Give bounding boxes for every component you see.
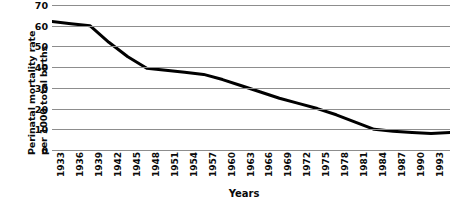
x-tick-label-1936: 1936 (75, 152, 85, 177)
gridline-70 (52, 5, 450, 6)
x-tick-label-1969: 1969 (283, 152, 293, 177)
plot-area (52, 5, 450, 150)
x-tick-label-1972: 1972 (302, 152, 312, 177)
x-axis-title-text: Years (229, 188, 260, 199)
x-axis-title: Years (0, 188, 452, 199)
x-tick-label-1939: 1939 (94, 152, 104, 177)
x-tick-label-1951: 1951 (170, 152, 180, 177)
gridline-50 (52, 46, 450, 47)
y-tick-label-10: 10 (26, 124, 48, 135)
y-tick-label-50: 50 (26, 41, 48, 52)
y-tick-label-70: 70 (26, 0, 48, 11)
y-tick-label-20: 20 (26, 103, 48, 114)
gridline-10 (52, 129, 450, 130)
x-axis-tick-labels: 1933193619391942194519481951195419571960… (52, 152, 450, 192)
y-tick-label-40: 40 (26, 62, 48, 73)
x-tick-label-1948: 1948 (151, 152, 161, 177)
y-tick-label-30: 30 (26, 82, 48, 93)
x-tick-label-1942: 1942 (113, 152, 123, 177)
perinatal-mortality-line-chart: Perinatal mortality rate per 1000 total … (0, 0, 452, 211)
x-tick-label-1987: 1987 (397, 152, 407, 177)
x-tick-label-1975: 1975 (321, 152, 331, 177)
x-tick-label-1945: 1945 (132, 152, 142, 177)
x-tick-label-1966: 1966 (264, 152, 274, 177)
x-tick-label-1993: 1993 (435, 152, 445, 177)
x-tick-label-1933: 1933 (56, 152, 66, 177)
x-tick-label-1963: 1963 (246, 152, 256, 177)
gridline-40 (52, 67, 450, 68)
x-tick-label-1984: 1984 (378, 152, 388, 177)
gridline-20 (52, 109, 450, 110)
gridline-30 (52, 88, 450, 89)
x-tick-label-1957: 1957 (208, 152, 218, 177)
y-axis-tick-labels: 706050403020100 (26, 0, 48, 160)
y-tick-label-60: 60 (26, 20, 48, 31)
x-tick-label-1954: 1954 (189, 152, 199, 177)
x-tick-label-1978: 1978 (340, 152, 350, 177)
y-tick-label-0: 0 (26, 145, 48, 156)
x-tick-label-1990: 1990 (416, 152, 426, 177)
gridline-0 (52, 150, 450, 151)
x-tick-label-1981: 1981 (359, 152, 369, 177)
x-tick-label-1960: 1960 (227, 152, 237, 177)
gridline-60 (52, 26, 450, 27)
mortality-rate-line (52, 5, 450, 150)
